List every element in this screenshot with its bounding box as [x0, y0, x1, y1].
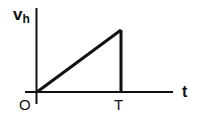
y-axis-label-subscript: h [22, 12, 29, 26]
origin-label: O [19, 97, 31, 112]
y-axis-label: vh [13, 6, 30, 23]
t-tick-label: T [114, 97, 123, 112]
x-axis-label: t [182, 84, 187, 100]
ramp-line [37, 30, 121, 92]
